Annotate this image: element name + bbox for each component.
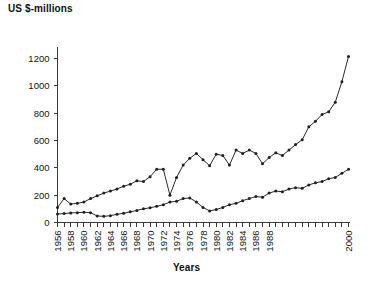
data-series	[56, 168, 350, 218]
chart-axes	[58, 47, 350, 223]
series-data-point	[63, 197, 66, 200]
series-data-point	[334, 176, 337, 179]
series-data-point	[347, 168, 350, 171]
series-data-point	[340, 172, 343, 175]
series-data-point	[241, 199, 244, 202]
series-data-point	[175, 176, 178, 179]
x-axis-tick-label: 1964	[105, 231, 116, 252]
series-data-point	[347, 55, 350, 58]
series-data-point	[102, 215, 105, 218]
series-data-point	[82, 211, 85, 214]
series-data-point	[89, 211, 92, 214]
series-data-point	[307, 183, 310, 186]
y-axis-tick-label: 0	[44, 217, 49, 228]
series-data-point	[327, 177, 330, 180]
series-data-point	[221, 206, 224, 209]
x-axis-tick-label: 1974	[171, 231, 182, 252]
series-data-point	[248, 197, 251, 200]
x-axis-tick-label: 1956	[52, 231, 63, 252]
x-axis-tick-label: 1980	[211, 231, 222, 252]
series-data-point	[122, 185, 125, 188]
y-axis-tick-label: 400	[34, 162, 50, 173]
series-data-point	[274, 151, 277, 154]
x-axis-tick-label: 2000	[343, 231, 354, 252]
series-data-point	[248, 149, 251, 152]
series-data-point	[208, 164, 211, 167]
series-data-point	[109, 214, 112, 217]
series-data-point	[340, 80, 343, 83]
series-data-point	[76, 211, 79, 214]
series-data-point	[182, 197, 185, 200]
series-data-point	[202, 158, 205, 161]
x-axis-title: Years	[0, 262, 373, 273]
series-data-point	[168, 194, 171, 197]
series-line	[58, 169, 349, 216]
series-data-point	[63, 212, 66, 215]
series-data-point	[274, 190, 277, 193]
series-data-point	[215, 153, 218, 156]
x-axis-tick-label: 1984	[237, 231, 248, 252]
series-data-point	[202, 206, 205, 209]
line-chart-plot: 020040060080010001200 195619581960196219…	[0, 0, 373, 285]
x-axis-tick-label: 1986	[250, 231, 261, 252]
series-data-point	[89, 197, 92, 200]
x-axis-tick-label: 1968	[131, 231, 142, 252]
series-data-point	[102, 192, 105, 195]
series-data-point	[155, 205, 158, 208]
chart-container: US $-millions 020040060080010001200 1956…	[0, 0, 373, 285]
series-data-point	[135, 209, 138, 212]
series-data-point	[69, 211, 72, 214]
y-axis-tick-label: 200	[34, 190, 50, 201]
series-data-point	[182, 164, 185, 167]
series-line	[58, 56, 349, 207]
series-data-point	[135, 179, 138, 182]
series-data-point	[261, 196, 264, 199]
series-data-point	[188, 157, 191, 160]
series-data-point	[261, 162, 264, 165]
data-series-group	[56, 55, 350, 218]
series-data-point	[301, 187, 304, 190]
series-data-point	[281, 154, 284, 157]
x-axis-tick-label: 1988	[264, 231, 275, 252]
series-data-point	[334, 101, 337, 104]
series-data-point	[254, 195, 257, 198]
series-data-point	[142, 207, 145, 210]
series-data-point	[228, 164, 231, 167]
series-data-point	[195, 152, 198, 155]
series-data-point	[314, 120, 317, 123]
series-data-point	[221, 154, 224, 157]
series-data-point	[116, 213, 119, 216]
series-data-point	[287, 149, 290, 152]
x-axis-tick-label: 1982	[224, 231, 235, 252]
series-data-point	[235, 149, 238, 152]
x-axis-tick-label: 1966	[118, 231, 129, 252]
series-data-point	[215, 208, 218, 211]
series-data-point	[149, 206, 152, 209]
x-axis-tick-label: 1978	[198, 231, 209, 252]
y-axis-tick-marks	[54, 59, 58, 223]
series-data-point	[307, 125, 310, 128]
series-data-point	[281, 190, 284, 193]
series-data-point	[268, 156, 271, 159]
series-data-point	[69, 203, 72, 206]
series-data-point	[321, 180, 324, 183]
y-axis-tick-label: 800	[34, 108, 50, 119]
series-data-point	[195, 201, 198, 204]
series-data-point	[56, 213, 59, 216]
y-axis-tick-label: 1000	[28, 80, 49, 91]
series-data-point	[76, 202, 79, 205]
series-data-point	[327, 110, 330, 113]
x-axis-tick-label: 1962	[92, 231, 103, 252]
series-data-point	[321, 113, 324, 116]
series-data-point	[175, 200, 178, 203]
series-data-point	[142, 180, 145, 183]
x-axis-tick-label: 1972	[158, 231, 169, 252]
series-data-point	[155, 168, 158, 171]
series-data-point	[96, 214, 99, 217]
series-data-point	[294, 186, 297, 189]
series-data-point	[116, 188, 119, 191]
series-data-point	[122, 212, 125, 215]
series-data-point	[96, 194, 99, 197]
y-axis-tick-labels: 020040060080010001200	[28, 53, 49, 228]
series-data-point	[162, 203, 165, 206]
